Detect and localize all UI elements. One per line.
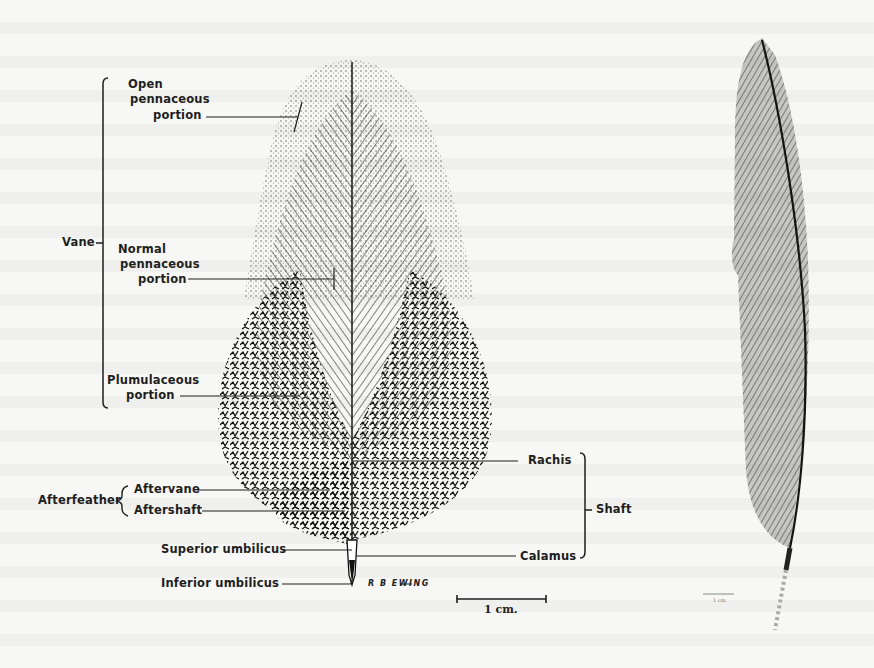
label-rachis: Rachis: [528, 454, 572, 467]
artist-signature: R B EWING: [368, 579, 430, 588]
label-normal-pennaceous-line3: portion: [138, 273, 187, 286]
label-aftershaft: Aftershaft: [134, 504, 202, 517]
main-feather: [218, 60, 492, 585]
label-aftervane: Aftervane: [134, 483, 200, 496]
secondary-feather: [732, 38, 809, 630]
label-superior-umbilicus: Superior umbilicus: [161, 543, 286, 556]
label-open-pennaceous-line1: Open: [128, 78, 163, 91]
scale-bar-main: [457, 595, 546, 603]
vane-bracket: [96, 78, 108, 408]
label-plumulaceous-line1: Plumulaceous: [107, 374, 199, 387]
label-vane: Vane: [62, 236, 95, 249]
scale-bar-main-label: 1 cm.: [484, 603, 518, 616]
label-open-pennaceous-line2: pennaceous: [130, 93, 210, 106]
label-afterfeather: Afterfeather: [38, 494, 121, 507]
label-shaft: Shaft: [596, 503, 632, 516]
label-plumulaceous-line2: portion: [126, 389, 175, 402]
label-open-pennaceous-line3: portion: [153, 109, 202, 122]
shaft-bracket: [580, 453, 592, 558]
label-calamus: Calamus: [520, 550, 576, 563]
label-inferior-umbilicus: Inferior umbilicus: [161, 577, 279, 590]
label-normal-pennaceous-line2: pennaceous: [120, 258, 200, 271]
scale-bar-secondary-label: 1 cm.: [713, 597, 727, 603]
label-normal-pennaceous-line1: Normal: [118, 243, 166, 256]
